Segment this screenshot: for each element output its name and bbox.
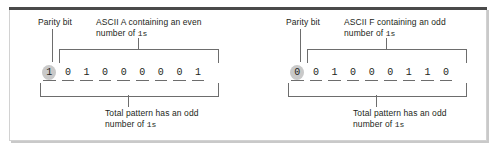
bit-value: 0 (350, 68, 356, 79)
total-pattern-bracket-stem (128, 95, 129, 107)
bit-underline (99, 80, 112, 81)
bit-underline (421, 80, 434, 81)
bit-underline (155, 80, 168, 81)
ascii-data-bits-bracket (307, 49, 467, 63)
data-bit-cell: 0 (133, 65, 152, 82)
data-bit-cell: 0 (59, 65, 78, 82)
data-bit-cell: 1 (400, 65, 419, 82)
ascii-caption: ASCII A containing an evennumber of 1s (96, 17, 202, 39)
parity-bit-label: Parity bit (38, 17, 72, 28)
bit-underline (136, 80, 149, 81)
total-pattern-caption: Total pattern has an oddnumber of 1s (105, 108, 199, 130)
data-bit-cell: 1 (189, 65, 208, 82)
ascii-data-bits-bracket (59, 49, 219, 63)
bit-value: 0 (102, 68, 108, 79)
bit-row-left: 1 0 1 0 0 0 0 (40, 64, 207, 82)
bit-underline (80, 80, 93, 81)
data-bit-cell: 0 (170, 65, 189, 82)
bit-underline (347, 80, 360, 81)
bit-value: 0 (65, 68, 71, 79)
bit-underline (117, 80, 130, 81)
bit-value: 0 (139, 68, 145, 79)
bit-value: 0 (294, 68, 300, 79)
total-pattern-caption-line2-prefix: number of (353, 119, 395, 129)
bit-value: 0 (387, 68, 393, 79)
bit-value: 0 (158, 68, 164, 79)
bit-value: 1 (195, 68, 201, 79)
parity-bit-leader-line (300, 29, 301, 62)
total-pattern-caption: Total pattern has an oddnumber of 1s (353, 108, 447, 130)
bit-value: 1 (46, 68, 52, 79)
bit-row-right: 0 0 1 0 0 0 1 (288, 64, 455, 82)
ascii-caption: ASCII F containing an oddnumber of 1s (344, 17, 446, 39)
bit-underline (403, 80, 416, 81)
bit-value: 0 (313, 68, 319, 79)
bit-underline (365, 80, 378, 81)
data-bit-cell: 0 (96, 65, 115, 82)
total-pattern-caption-line2-prefix: number of (105, 119, 147, 129)
ascii-caption-line1: ASCII F containing an odd (344, 17, 446, 27)
bit-value: 1 (406, 68, 412, 79)
bit-underline (43, 80, 56, 81)
bit-underline (173, 80, 186, 81)
parity-bit-leader-line (52, 29, 53, 62)
bit-value: 0 (369, 68, 375, 79)
data-bit-cell: 0 (381, 65, 400, 82)
data-bit-cell: 0 (114, 65, 133, 82)
ascii-caption-line1: ASCII A containing an even (96, 17, 202, 27)
bit-value: 1 (424, 68, 430, 79)
bit-value: 0 (121, 68, 127, 79)
total-pattern-caption-line2-mono: 1s (147, 120, 157, 129)
bit-value: 1 (83, 68, 89, 79)
bit-underline (310, 80, 323, 81)
bit-value: 1 (331, 68, 337, 79)
data-bit-cell: 0 (437, 65, 456, 82)
bit-underline (440, 80, 453, 81)
data-bit-cell: 1 (418, 65, 437, 82)
bit-value: 0 (443, 68, 449, 79)
total-pattern-caption-line2-mono: 1s (395, 120, 405, 129)
bit-underline (291, 80, 304, 81)
bit-underline (192, 80, 205, 81)
parity-panel-left: Parity bit ASCII A containing an evennum… (10, 0, 249, 155)
bit-underline (62, 80, 75, 81)
data-bit-cell: 0 (152, 65, 171, 82)
bit-value: 0 (176, 68, 182, 79)
total-pattern-caption-line1: Total pattern has an odd (353, 108, 447, 118)
total-pattern-caption-line1: Total pattern has an odd (105, 108, 199, 118)
parity-bit-figure: Parity bit ASCII A containing an evennum… (0, 0, 498, 155)
total-pattern-bracket (288, 83, 467, 97)
total-pattern-bracket (40, 83, 219, 97)
parity-panel-right: Parity bit ASCII F containing an oddnumb… (258, 0, 497, 155)
ascii-caption-line2-prefix: number of (344, 28, 386, 38)
bit-underline (328, 80, 341, 81)
bit-underline (384, 80, 397, 81)
ascii-caption-line2-prefix: number of (96, 28, 138, 38)
data-bit-cell: 1 (325, 65, 344, 82)
parity-bit-cell: 0 (288, 65, 307, 82)
ascii-caption-line2-mono: 1s (138, 29, 148, 38)
data-bit-cell: 0 (362, 65, 381, 82)
total-pattern-bracket-stem (376, 95, 377, 107)
parity-bit-cell: 1 (40, 65, 59, 82)
data-bit-cell: 0 (344, 65, 363, 82)
ascii-caption-line2-mono: 1s (386, 29, 396, 38)
parity-bit-label: Parity bit (286, 17, 320, 28)
data-bit-cell: 1 (77, 65, 96, 82)
data-bit-cell: 0 (307, 65, 326, 82)
